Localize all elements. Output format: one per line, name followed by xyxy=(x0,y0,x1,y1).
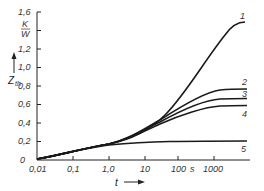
curve-labels: 1 2 3 4 5 xyxy=(240,11,247,154)
svg-text:0,2: 0,2 xyxy=(18,136,31,146)
x-ticks xyxy=(73,156,214,160)
svg-text:4: 4 xyxy=(242,109,247,119)
svg-text:1,0: 1,0 xyxy=(18,62,31,72)
x-axis-label: t xyxy=(115,177,145,188)
svg-text:3: 3 xyxy=(242,89,247,99)
curve-1 xyxy=(37,22,245,159)
svg-text:0,1: 0,1 xyxy=(67,164,80,174)
x-tick-labels: 0,01 0,1 1,0 10 100 s 1000 xyxy=(29,164,223,174)
svg-text:100: 100 xyxy=(171,164,186,174)
svg-text:t: t xyxy=(115,177,119,188)
svg-text:0: 0 xyxy=(20,155,25,165)
svg-text:0,4: 0,4 xyxy=(18,118,31,128)
arrow-right-icon xyxy=(138,180,145,185)
svg-text:1,6: 1,6 xyxy=(18,7,31,17)
arrow-up-icon xyxy=(12,52,17,59)
y-ticks xyxy=(37,12,41,142)
svg-text:W: W xyxy=(21,29,31,39)
curve-5 xyxy=(37,141,247,159)
svg-text:K: K xyxy=(22,19,29,29)
thermal-impedance-chart: 0 0,2 0,4 0,6 0,8 1,0 1,2 1,6 K W Z th 0… xyxy=(0,0,264,191)
svg-text:s: s xyxy=(190,164,195,174)
svg-text:th: th xyxy=(15,80,21,87)
y-unit: K W xyxy=(21,19,31,39)
svg-text:10: 10 xyxy=(140,164,150,174)
svg-text:Z: Z xyxy=(7,75,15,86)
svg-text:5: 5 xyxy=(241,144,247,154)
svg-text:0,6: 0,6 xyxy=(18,99,31,109)
svg-text:1,0: 1,0 xyxy=(102,164,115,174)
curve-3 xyxy=(37,99,247,160)
svg-text:1: 1 xyxy=(240,11,245,21)
curve-4 xyxy=(37,106,247,160)
svg-text:1,2: 1,2 xyxy=(18,44,31,54)
svg-text:0,01: 0,01 xyxy=(29,164,47,174)
svg-text:1000: 1000 xyxy=(203,164,223,174)
svg-text:2: 2 xyxy=(241,77,247,87)
